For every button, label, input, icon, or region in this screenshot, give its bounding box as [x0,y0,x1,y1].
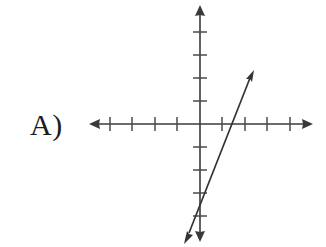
answer-choice-graph-panel: A) [0,0,326,247]
y-axis-top-arrow-icon [195,5,205,16]
coordinate-plane-graph [0,0,326,247]
plotted-line-down-arrow-icon [184,231,193,244]
x-axis-left-arrow-icon [89,119,100,129]
y-axis-bottom-arrow-icon [195,231,205,242]
x-axis-right-arrow-icon [302,119,313,129]
